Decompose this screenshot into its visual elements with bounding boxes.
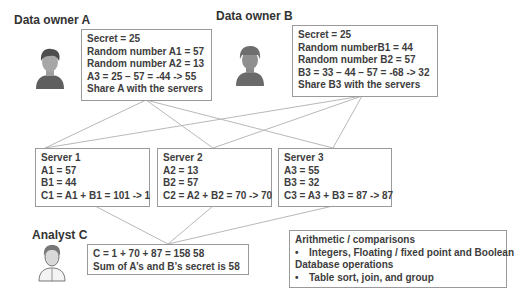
owner-b-label: Data owner B (216, 9, 293, 23)
server-3-box: Server 3 A3 = 55 B3 = 32 C3 = A3 + B3 = … (278, 148, 392, 207)
owner-b-random-b2: Random number B2 = 57 (298, 54, 432, 67)
server-1-b1: B1 = 44 (41, 177, 144, 190)
server-2-box: Server 2 A2 = 13 B2 = 57 C2 = A2 + B2 = … (157, 148, 272, 207)
server-1-box: Server 1 A1 = 57 B1 = 44 C1 = A1 + B1 = … (35, 148, 150, 207)
owner-a-a3: A3 = 25 – 57 = -44 -> 55 (87, 71, 206, 84)
bullet-icon: • (295, 247, 309, 260)
server-2-title: Server 2 (163, 152, 266, 165)
bullet-icon: • (295, 272, 309, 285)
server-1-title: Server 1 (41, 152, 144, 165)
operations-bullet-table: •Table sort, join, and group (295, 272, 501, 285)
owner-a-random-a1: Random number A1 = 57 (87, 46, 206, 59)
person-with-cap-icon (234, 44, 266, 86)
owner-a-share: Share A with the servers (87, 83, 206, 96)
server-1-a1: A1 = 57 (41, 165, 144, 178)
server-3-title: Server 3 (284, 152, 386, 165)
owner-b-b3: B3 = 33 – 44 – 57 = -68 -> 32 (298, 67, 432, 80)
owner-a-secret: Secret = 25 (87, 33, 206, 46)
owner-a-label: Data owner A (14, 13, 90, 27)
owner-a-box: Secret = 25 Random number A1 = 57 Random… (81, 29, 212, 101)
owner-b-share: Share B3 with the servers (298, 79, 432, 92)
server-3-b3: B3 = 32 (284, 177, 386, 190)
owner-b-secret: Secret = 25 (298, 29, 432, 42)
person-icon (37, 244, 67, 282)
analyst-box: C = 1 + 70 + 87 = 158 58 Sum of A’s and … (87, 244, 249, 275)
server-3-a3: A3 = 55 (284, 165, 386, 178)
server-3-c3: C3 = A3 + B3 = 87 -> 87 (284, 190, 386, 203)
server-2-b2: B2 = 57 (163, 177, 266, 190)
server-2-a2: A2 = 13 (163, 165, 266, 178)
server-2-c2: C2 = A2 + B2 = 70 -> 70 (163, 190, 266, 203)
operations-bullet-table-text: Table sort, join, and group (309, 272, 434, 283)
owner-a-random-a2: Random number A2 = 13 (87, 58, 206, 71)
operations-bullet-types: •Integers, Floating / fixed point and Bo… (295, 247, 501, 260)
owner-b-box: Secret = 25 Random numberB1 = 44 Random … (292, 25, 438, 97)
analyst-result: Sum of A’s and B’s secret is 58 (93, 261, 243, 274)
person-icon (33, 47, 67, 89)
operations-heading-database: Database operations (295, 259, 501, 272)
analyst-label: Analyst C (32, 228, 87, 242)
server-1-c1: C1 = A1 + B1 = 101 -> 1 (41, 190, 144, 203)
owner-b-random-b1: Random numberB1 = 44 (298, 42, 432, 55)
analyst-sum: C = 1 + 70 + 87 = 158 58 (93, 248, 243, 261)
operations-bullet-types-text: Integers, Floating / fixed point and Boo… (309, 247, 514, 258)
operations-heading-arithmetic: Arithmetic / comparisons (295, 234, 501, 247)
operations-box: Arithmetic / comparisons •Integers, Floa… (289, 230, 507, 288)
